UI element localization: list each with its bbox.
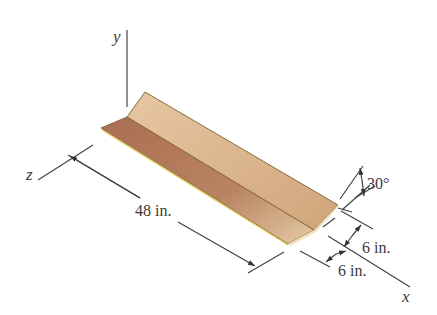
angle-label: 30°: [367, 175, 389, 192]
leg-lower-arrow-b: [326, 254, 336, 262]
angle-bar-diagram: y z 48 in. x 30° 6 in. 6 in.: [0, 0, 437, 315]
leg-upper-arrow-a: [352, 225, 361, 236]
length-dimension-arrow-right: [178, 222, 255, 266]
leg-lower-arrow-a: [336, 251, 346, 254]
leg-upper-label: 6 in.: [362, 239, 390, 256]
leg-upper-arrow-b: [344, 236, 352, 247]
length-dimension-label: 48 in.: [135, 202, 171, 219]
extension-line-mid: [341, 211, 373, 229]
extension-line-lower: [300, 251, 330, 267]
length-extension-right: [248, 252, 284, 273]
length-dimension-arrow-left: [70, 156, 140, 198]
x-axis-label: x: [401, 287, 410, 306]
y-axis-label: y: [111, 27, 121, 46]
z-axis-label: z: [25, 165, 33, 184]
leg-lower-label: 6 in.: [338, 262, 366, 279]
z-axis: [38, 145, 93, 180]
extension-line-upper-2: [338, 208, 352, 212]
